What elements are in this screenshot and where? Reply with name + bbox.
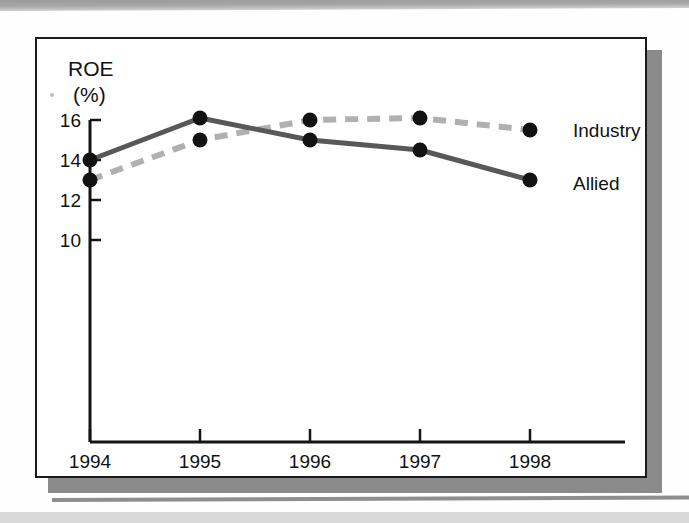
- scan-artifact-top-band: [0, 0, 689, 11]
- data-point: [523, 123, 538, 138]
- data-point: [413, 111, 428, 126]
- x-tick-label-1996: 1996: [289, 451, 331, 472]
- data-point: [303, 113, 318, 128]
- x-tick-label-1995: 1995: [179, 451, 221, 472]
- data-point: [523, 173, 538, 188]
- legend-label-industry: Industry: [573, 120, 641, 141]
- scan-artifact-bottom-band: [0, 512, 689, 523]
- roe-line-chart: ROE (%) 16 14 12 10 1994 1995 1996 1997 …: [37, 39, 649, 480]
- x-tick-label-1998: 1998: [509, 451, 551, 472]
- x-tick-label-1997: 1997: [399, 451, 441, 472]
- data-point: [303, 133, 318, 148]
- data-point: [193, 133, 208, 148]
- legend-label-allied: Allied: [573, 173, 619, 194]
- data-point: [83, 153, 98, 168]
- y-axis-title: ROE: [68, 57, 114, 80]
- series-markers-industry: [83, 111, 538, 188]
- y-tick-label-16: 16: [60, 110, 81, 131]
- x-tick-label-1994: 1994: [69, 451, 112, 472]
- y-tick-label-10: 10: [60, 230, 81, 251]
- data-point: [413, 143, 428, 158]
- scan-artifact-rule: [52, 496, 689, 502]
- chart-plot-area: ROE (%) 16 14 12 10 1994 1995 1996 1997 …: [37, 39, 649, 480]
- data-point: [83, 173, 98, 188]
- data-point: [193, 111, 208, 126]
- y-tick-label-14: 14: [60, 150, 82, 171]
- chart-frame: ROE (%) 16 14 12 10 1994 1995 1996 1997 …: [35, 37, 647, 478]
- scan-speck: [50, 93, 54, 97]
- y-tick-label-12: 12: [60, 190, 81, 211]
- y-axis-unit: (%): [73, 83, 106, 106]
